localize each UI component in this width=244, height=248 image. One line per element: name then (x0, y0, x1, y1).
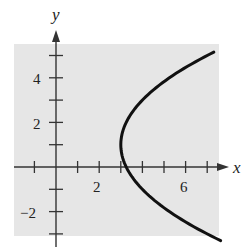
plot-background-panel (14, 44, 219, 236)
y-tick-label-neg2: −2 (20, 205, 36, 221)
x-tick-label-2: 2 (93, 179, 101, 195)
y-tick-label-4: 4 (33, 71, 41, 87)
x-axis-arrow-icon (217, 163, 229, 171)
parabola-chart: x y 2 6 4 2 −2 (0, 0, 244, 248)
y-tick-label-2: 2 (33, 116, 41, 132)
y-axis-label: y (50, 5, 60, 24)
x-tick-label-6: 6 (180, 179, 188, 195)
x-axis-label: x (232, 158, 241, 177)
y-axis-arrow-icon (52, 30, 60, 42)
